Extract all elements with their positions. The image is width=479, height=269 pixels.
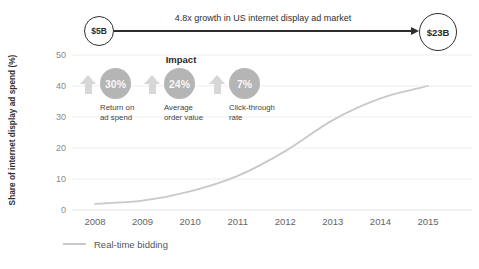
y-axis-label: Share of internet display ad spend (%) <box>7 50 19 210</box>
y-tick-label: 0 <box>40 205 66 215</box>
rtb-growth-infographic: 4.8x growth in US internet display ad ma… <box>0 0 479 269</box>
x-tick-label: 2013 <box>311 216 355 227</box>
y-tick-label: 10 <box>40 174 66 184</box>
impact-title: Impact <box>146 54 216 65</box>
x-tick-label: 2009 <box>121 216 165 227</box>
y-tick-label: 30 <box>40 112 66 122</box>
impact-item-average-order-value: 24% Average order value <box>144 68 214 128</box>
up-arrow-icon <box>144 75 160 94</box>
up-arrow-icon <box>80 75 96 94</box>
y-tick-label: 40 <box>40 81 66 91</box>
impact-item-click-through-rate: 7% Click-through rate <box>209 68 279 128</box>
impact-value-badge: 24% <box>164 68 195 99</box>
legend: Real-time bidding <box>63 237 168 251</box>
x-tick-label: 2010 <box>168 216 212 227</box>
legend-label: Real-time bidding <box>94 239 168 250</box>
x-tick-label: 2014 <box>358 216 402 227</box>
y-tick-label: 50 <box>40 50 66 60</box>
impact-item-return-on-ad-spend: 30% Return on ad spend <box>80 68 150 128</box>
x-tick-label: 2011 <box>216 216 260 227</box>
impact-item-label: Click-through rate <box>229 103 287 122</box>
x-tick-label: 2008 <box>73 216 117 227</box>
x-tick-label: 2015 <box>406 216 450 227</box>
x-tick-label: 2012 <box>263 216 307 227</box>
legend-line-swatch <box>63 243 86 245</box>
up-arrow-icon <box>209 75 225 94</box>
impact-value-badge: 30% <box>100 68 131 99</box>
impact-value-badge: 7% <box>229 68 260 99</box>
line-plot <box>0 0 479 269</box>
y-tick-label: 20 <box>40 143 66 153</box>
